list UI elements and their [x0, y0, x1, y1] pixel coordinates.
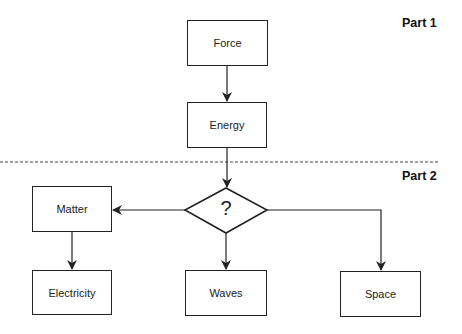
node-force: Force — [187, 20, 268, 66]
section-label-part-1: Part 1 — [402, 16, 437, 30]
node-matter: Matter — [32, 186, 112, 232]
node-space: Space — [340, 271, 421, 317]
node-energy: Energy — [187, 102, 267, 148]
node-waves: Waves — [185, 270, 267, 316]
section-label-part-2: Part 2 — [402, 169, 437, 183]
decision-label: ? — [211, 197, 241, 220]
node-electricity: Electricity — [32, 270, 112, 315]
edge-decision-space — [267, 210, 381, 270]
